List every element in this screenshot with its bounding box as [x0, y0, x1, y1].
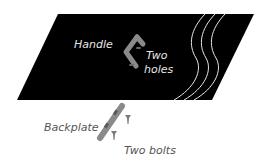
- label-handle: Handle: [74, 38, 113, 51]
- label-holes-line2: holes: [144, 63, 174, 76]
- label-holes-line1: Two: [146, 49, 168, 62]
- bolt-icon-2: [111, 131, 117, 140]
- label-backplate: Backplate: [44, 121, 99, 134]
- panel: [17, 14, 254, 100]
- hole-lower: [129, 64, 134, 66]
- label-bolts: Two bolts: [124, 144, 176, 157]
- hole-upper: [136, 47, 141, 49]
- backplate-icon: [100, 106, 122, 138]
- bolt-icon-1: [125, 115, 131, 124]
- assembly-diagram: Handle Two holes Backplate Two bolts: [0, 0, 274, 167]
